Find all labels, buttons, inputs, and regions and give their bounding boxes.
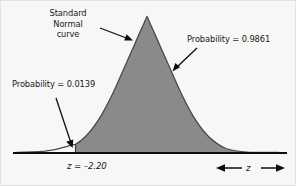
curve-label-line-1: Standard bbox=[37, 8, 99, 19]
curve-label-line-3: curve bbox=[37, 29, 99, 40]
probability-right-label: Probability = 0.9861 bbox=[187, 34, 270, 45]
callout-arrow-curve bbox=[100, 28, 133, 41]
figure-container: Standard Normal curve Probability = 0.98… bbox=[0, 0, 296, 186]
curve-label-line-2: Normal bbox=[37, 19, 99, 30]
standard-normal-curve-label: Standard Normal curve bbox=[37, 8, 99, 40]
z-axis-label: z bbox=[246, 163, 250, 174]
callout-arrow-probability-left bbox=[56, 98, 73, 148]
probability-left-label: Probability = 0.0139 bbox=[12, 79, 95, 90]
callout-arrow-probability-right bbox=[173, 48, 198, 71]
z-axis-double-arrow bbox=[216, 160, 285, 176]
z-cutoff-value-label: z = –2.20 bbox=[67, 161, 107, 172]
